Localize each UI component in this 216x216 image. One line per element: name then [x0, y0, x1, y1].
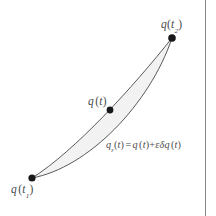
true-path-point-dot [107, 107, 114, 114]
end-endpoint-dot [168, 34, 176, 42]
true-path-curve [32, 38, 172, 178]
label-endpoint-end: q(t2) [161, 19, 182, 31]
figure-container: q(t2) q(t) q(t1) qε(t)=q(t)+εδq(t) [0, 0, 216, 216]
variation-region-shading [32, 38, 172, 178]
varied-path-curve [32, 38, 172, 178]
page-margin [207, 0, 216, 216]
start-endpoint-dot [28, 174, 35, 181]
label-endpoint-start: q(t1) [11, 184, 34, 196]
label-true-path: q(t) [88, 96, 107, 108]
label-varied-path-equation: qε(t)=q(t)+εδq(t) [106, 140, 181, 150]
